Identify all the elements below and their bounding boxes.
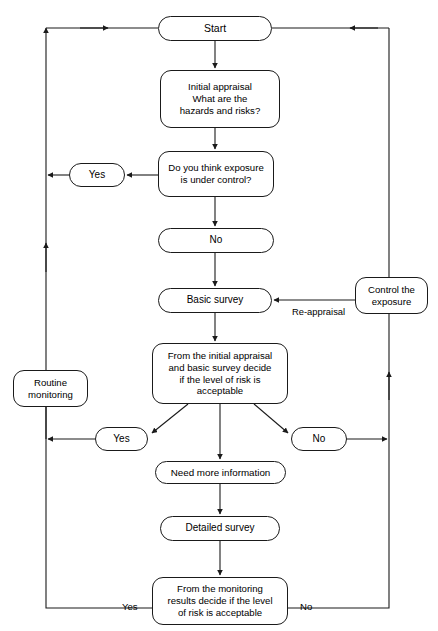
connector-monitoring-yes-to-left-rail: [46, 28, 152, 608]
connector-decision-to-no: [254, 404, 288, 433]
node-yes-risk[interactable]: Yes: [95, 427, 148, 451]
node-detailed-survey[interactable]: Detailed survey: [160, 516, 280, 541]
node-basic-survey[interactable]: Basic survey: [158, 288, 272, 313]
flowchart-canvas: Start Initial appraisal What are the haz…: [0, 0, 438, 631]
node-monitoring-decision[interactable]: From the monitoring results decide if th…: [152, 577, 288, 625]
node-exposure-question[interactable]: Do you think exposure is under control?: [158, 151, 274, 197]
node-initial-appraisal[interactable]: Initial appraisal What are the hazards a…: [160, 70, 280, 128]
node-risk-decision[interactable]: From the initial appraisal and basic sur…: [152, 343, 288, 404]
edge-label-re-appraisal: Re-appraisal: [292, 306, 345, 317]
connector-decision-to-yes: [152, 404, 188, 433]
node-start[interactable]: Start: [158, 16, 272, 41]
connector-monitoring-no-to-right-rail: [288, 28, 389, 608]
node-yes-exposure[interactable]: Yes: [69, 163, 125, 187]
edge-label-no-bottom: No: [300, 601, 312, 612]
node-control-exposure[interactable]: Control the exposure: [355, 277, 428, 314]
edge-label-yes-bottom: Yes: [122, 601, 138, 612]
node-no-risk[interactable]: No: [291, 427, 347, 451]
node-need-more-info[interactable]: Need more information: [155, 461, 286, 484]
node-routine-monitoring[interactable]: Routine monitoring: [13, 370, 88, 407]
node-no-exposure[interactable]: No: [158, 228, 274, 253]
